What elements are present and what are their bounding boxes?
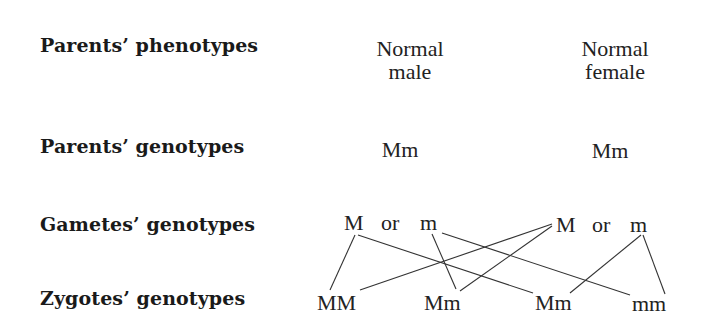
line-male-M-to-MM bbox=[330, 235, 355, 290]
line-female-M-to-Mm1 bbox=[460, 226, 552, 291]
line-female-M-to-MM bbox=[360, 224, 552, 290]
line-female-m-to-mm bbox=[643, 235, 665, 294]
line-female-m-to-Mm2 bbox=[570, 235, 641, 293]
cross-lines bbox=[0, 0, 710, 336]
line-male-m-to-mm bbox=[442, 233, 630, 295]
